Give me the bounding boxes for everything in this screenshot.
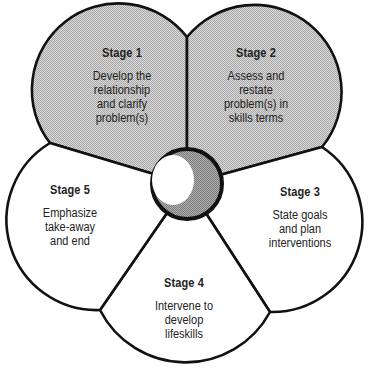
stage-3-title: Stage 3 [256,185,344,199]
stage-4-description: Intervene to develop lifeskills [140,299,228,341]
stage-1-description: Develop the relationship and clarify pro… [78,69,166,125]
stage-3-label: Stage 3 State goals and plan interventio… [250,185,350,250]
stage-1-title: Stage 1 [78,46,166,60]
stage-5-label: Stage 5 Emphasize take-away and end [20,183,120,248]
stage-2-label: Stage 2 Assess and restate problem(s) in… [206,46,306,125]
stage-2-title: Stage 2 [212,46,300,60]
stage-4-title: Stage 4 [140,276,228,290]
stage-1-label: Stage 1 Develop the relationship and cla… [72,46,172,125]
stage-2-description: Assess and restate problem(s) in skills … [212,69,300,125]
stage-3-description: State goals and plan interventions [256,208,344,250]
stage-4-label: Stage 4 Intervene to develop lifeskills [134,276,234,341]
sphere-hub-icon [152,149,222,219]
stage-5-title: Stage 5 [26,183,114,197]
stage-5-description: Emphasize take-away and end [26,206,114,248]
